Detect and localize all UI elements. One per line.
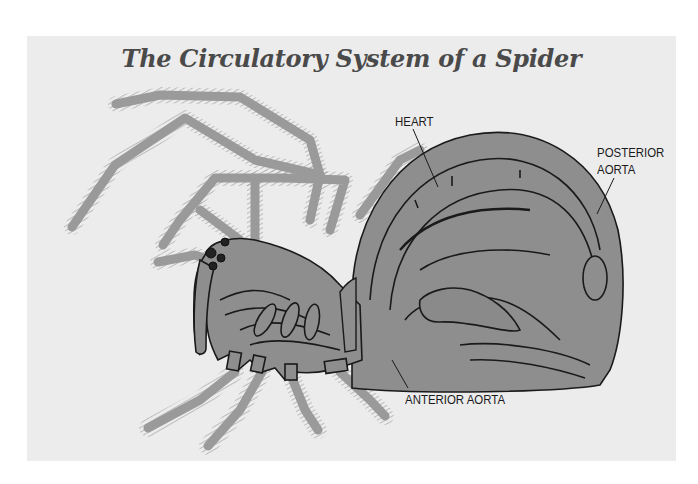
diagram-panel: The Circulatory System of a Spider	[27, 36, 676, 461]
label-posterior-aorta-line2: AORTA	[597, 162, 635, 178]
label-heart: HEART	[395, 114, 434, 130]
label-posterior-aorta-line1: POSTERIOR	[597, 145, 664, 161]
spider-illustration	[27, 36, 676, 461]
label-anterior-aorta: ANTERIOR AORTA	[405, 392, 505, 408]
